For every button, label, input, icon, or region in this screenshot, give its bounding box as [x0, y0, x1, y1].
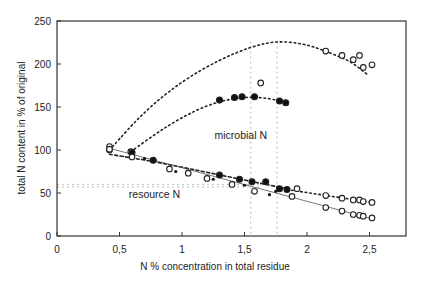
data-point: [277, 98, 283, 104]
data-point: [289, 194, 295, 200]
data-point: [323, 193, 329, 199]
y-tick-label: 150: [34, 102, 51, 113]
data-point: [263, 179, 269, 185]
data-point: [339, 53, 345, 59]
annotation-microbial-n: microbial N: [214, 129, 267, 141]
x-tick-label: 0: [54, 244, 60, 255]
annotation-resource-n: resource N: [129, 188, 180, 200]
data-point-small: [174, 170, 177, 173]
y-tick-label: 200: [34, 59, 51, 70]
data-point: [360, 199, 366, 205]
data-point-small: [212, 178, 215, 181]
y-tick-label: 50: [40, 188, 52, 199]
data-point: [350, 57, 356, 63]
data-point: [350, 197, 356, 203]
data-point: [249, 179, 255, 185]
y-tick-label: 100: [34, 145, 51, 156]
data-point: [357, 53, 363, 59]
data-point: [369, 62, 375, 68]
data-point: [150, 157, 156, 163]
data-point: [277, 186, 283, 192]
data-point: [369, 200, 375, 206]
data-point: [129, 154, 135, 160]
fit-line: [110, 148, 373, 219]
data-point: [339, 195, 345, 201]
x-tick-label: 1,5: [238, 244, 252, 255]
y-axis-label: total N content in % of original: [16, 62, 27, 195]
data-point: [204, 176, 210, 182]
data-point-small: [143, 157, 146, 160]
data-point: [339, 208, 345, 214]
data-point-small: [274, 190, 277, 193]
data-point: [107, 146, 113, 152]
data-point: [258, 80, 264, 86]
data-point: [323, 48, 329, 54]
data-point: [350, 212, 356, 218]
y-tick-label: 0: [45, 231, 51, 242]
data-point: [229, 182, 235, 188]
data-point: [284, 187, 290, 193]
x-tick-label: 2,5: [363, 244, 377, 255]
data-point: [252, 188, 258, 194]
x-axis-label: N % concentration in total residue: [140, 261, 290, 272]
data-point-small: [268, 193, 271, 196]
data-point: [217, 172, 223, 178]
data-point: [323, 205, 329, 211]
data-point: [239, 94, 245, 100]
fit-line: [110, 154, 288, 188]
data-point: [217, 97, 223, 103]
data-point: [237, 176, 243, 182]
data-point: [360, 65, 366, 71]
data-point: [294, 186, 300, 192]
data-point: [369, 215, 375, 221]
x-tick-label: 0,5: [113, 244, 127, 255]
data-point: [283, 100, 289, 106]
data-point: [252, 94, 258, 100]
data-point: [232, 95, 238, 101]
data-point-small: [243, 184, 246, 187]
chart: 00,511,522,5 050100150200250 N % concent…: [0, 0, 424, 286]
y-tick-label: 250: [34, 16, 51, 27]
fit-line: [131, 97, 289, 151]
data-point: [167, 166, 173, 172]
x-tick-label: 2: [304, 244, 310, 255]
data-point: [185, 170, 191, 176]
x-tick-label: 1: [179, 244, 185, 255]
data-point: [360, 213, 366, 219]
